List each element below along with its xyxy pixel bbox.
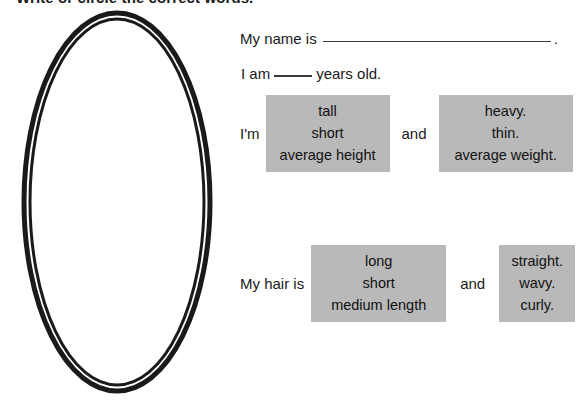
hair-option-wavy[interactable]: wavy. <box>508 272 566 294</box>
hair-length-choice-box[interactable]: long short medium length <box>311 245 446 322</box>
hair-option-short[interactable]: short <box>320 272 437 294</box>
oval-outer-stroke <box>24 13 210 391</box>
oval-portrait-frame <box>20 10 214 394</box>
hair-row-label: My hair is <box>240 276 304 291</box>
body-row-label: I'm <box>240 126 260 141</box>
height-option-short[interactable]: short <box>275 122 381 144</box>
hair-option-medium[interactable]: medium length <box>320 294 437 316</box>
age-label-after: years old. <box>316 65 381 82</box>
height-option-tall[interactable]: tall <box>275 100 381 122</box>
height-choice-box[interactable]: tall short average height <box>266 95 390 172</box>
age-blank-field[interactable] <box>274 75 312 77</box>
worksheet-form: My name is. I amyears old. I'm tall shor… <box>240 0 578 405</box>
hair-description-row: My hair is long short medium length and … <box>240 245 575 322</box>
weight-option-heavy[interactable]: heavy. <box>448 100 564 122</box>
name-label: My name is <box>240 30 317 47</box>
name-end-period: . <box>554 30 558 47</box>
weight-option-average[interactable]: average weight. <box>448 144 564 166</box>
hair-option-straight[interactable]: straight. <box>508 250 566 272</box>
weight-option-thin[interactable]: thin. <box>448 122 564 144</box>
hair-option-curly[interactable]: curly. <box>508 294 566 316</box>
height-option-average[interactable]: average height <box>275 144 381 166</box>
instruction-heading: Write or circle the correct words. <box>16 0 253 6</box>
weight-choice-box[interactable]: heavy. thin. average weight. <box>439 95 573 172</box>
name-blank-field[interactable] <box>323 41 551 42</box>
age-label-before: I am <box>241 65 270 82</box>
age-line: I amyears old. <box>241 65 381 82</box>
worksheet-page: Write or circle the correct words. My na… <box>0 0 578 405</box>
name-line: My name is. <box>240 30 558 47</box>
hair-option-long[interactable]: long <box>320 250 437 272</box>
hair-texture-choice-box[interactable]: straight. wavy. curly. <box>499 245 575 322</box>
hair-row-conjunction: and <box>460 276 485 291</box>
body-description-row: I'm tall short average height and heavy.… <box>240 95 573 172</box>
body-row-conjunction: and <box>402 126 427 141</box>
